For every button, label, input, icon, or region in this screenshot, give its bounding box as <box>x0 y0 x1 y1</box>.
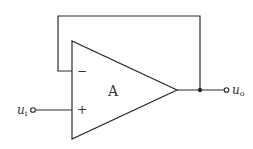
inverting-input-sign: − <box>77 64 87 78</box>
noninverting-input-sign: + <box>77 103 87 117</box>
circuit-diagram: − + A ui uo <box>0 0 253 149</box>
amplifier-label: A <box>107 83 119 99</box>
op-amp-triangle <box>72 41 177 139</box>
output-terminal <box>224 88 229 93</box>
output-label: uo <box>232 83 245 98</box>
input-label: ui <box>17 103 28 118</box>
junction-dot <box>198 88 202 92</box>
feedback-wire <box>58 16 200 90</box>
input-terminal <box>31 108 36 113</box>
